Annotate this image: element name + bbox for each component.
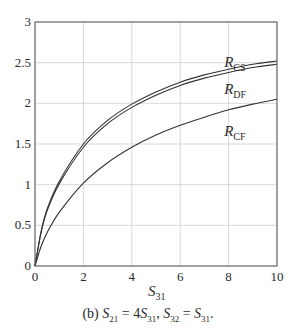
- y-tick-label: 1: [25, 177, 32, 192]
- y-tick-label: 2: [25, 95, 32, 110]
- x-tick-label: 8: [225, 269, 232, 284]
- label-df: RDF: [223, 81, 246, 100]
- x-tick-label: 2: [80, 269, 87, 284]
- y-tick-label: 1.5: [15, 136, 31, 151]
- x-tick-label: 4: [129, 269, 136, 284]
- x-axis-label: S31: [148, 283, 166, 300]
- x-tick-label: 10: [271, 269, 284, 284]
- y-axis-ticks: 00.511.522.53: [15, 14, 31, 273]
- y-tick-label: 2.5: [15, 55, 31, 70]
- x-tick-label: 6: [177, 269, 184, 284]
- grid-lines: [35, 22, 277, 266]
- y-tick-label: 3: [25, 14, 32, 29]
- y-tick-label: 0: [25, 258, 32, 273]
- series-labels: RCSRDFRCF: [223, 54, 246, 142]
- figure-caption: (b) S21 = 4S31, S32 = S31.: [0, 306, 296, 324]
- label-cf: RCF: [223, 123, 246, 142]
- line-chart: 00.511.522.53 0246810 RCSRDFRCF S31: [0, 0, 296, 300]
- y-tick-label: 0.5: [15, 217, 31, 232]
- x-tick-label: 0: [32, 269, 39, 284]
- x-axis-ticks: 0246810: [32, 269, 284, 284]
- curve-cf: [35, 99, 277, 266]
